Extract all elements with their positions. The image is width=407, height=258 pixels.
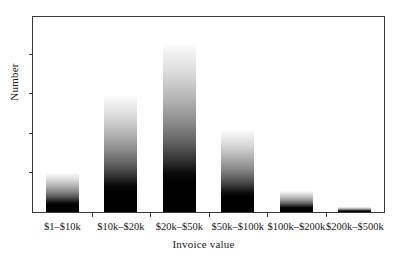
bar-chart-figure: Number $1–$10k$10k–$20k$20k–$50k$50k–$10… — [0, 0, 407, 258]
bar-fill — [221, 130, 254, 212]
x-axis-tick-label: $100k–$200k — [267, 221, 326, 232]
bar — [221, 130, 254, 212]
bar-fill — [46, 173, 79, 212]
y-axis-label: Number — [8, 22, 20, 142]
x-axis-tick-labels: $1–$10k$10k–$20k$20k–$50k$50k–$100k$100k… — [0, 221, 407, 237]
x-axis-tick-label: $20k–$50k — [150, 221, 209, 232]
x-axis-tick-label: $200k–$500k — [326, 221, 385, 232]
bar — [280, 191, 313, 212]
bar — [338, 207, 371, 212]
bar-fill — [338, 207, 371, 212]
x-axis-tick — [267, 213, 268, 217]
x-axis-tick — [326, 213, 327, 217]
x-axis-label: Invoice value — [0, 238, 407, 250]
bars-layer — [33, 17, 384, 212]
bar — [46, 173, 79, 212]
bar — [163, 44, 196, 212]
bar-fill — [163, 44, 196, 212]
x-axis-tick — [209, 213, 210, 217]
bar — [104, 96, 137, 212]
x-axis-tick-label: $1–$10k — [33, 221, 92, 232]
bar-fill — [104, 96, 137, 212]
x-axis-tick — [150, 213, 151, 217]
x-axis-tick — [92, 213, 93, 217]
bar-fill — [280, 191, 313, 212]
x-axis-tick-label: $50k–$100k — [209, 221, 268, 232]
x-axis-tick-label: $10k–$20k — [92, 221, 151, 232]
